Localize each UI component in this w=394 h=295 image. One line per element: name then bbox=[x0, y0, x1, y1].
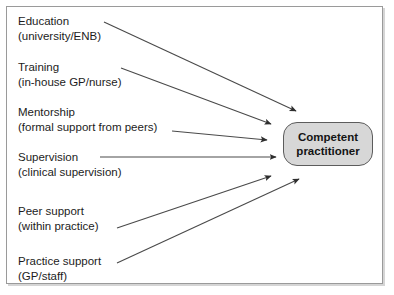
source-label-education-line1: Education bbox=[18, 14, 101, 29]
source-label-training: Training (in-house GP/nurse) bbox=[18, 60, 122, 90]
source-label-training-line2: (in-house GP/nurse) bbox=[18, 75, 122, 90]
source-label-mentorship-line1: Mentorship bbox=[18, 105, 157, 120]
source-label-supervision-line2: (clinical supervision) bbox=[18, 165, 122, 180]
source-label-mentorship: Mentorship (formal support from peers) bbox=[18, 105, 157, 135]
target-node-line1: Competent bbox=[298, 130, 358, 144]
source-label-mentorship-line2: (formal support from peers) bbox=[18, 120, 157, 135]
source-label-practice-support-line1: Practice support bbox=[18, 254, 101, 269]
source-label-peer-support: Peer support (within practice) bbox=[18, 204, 99, 234]
source-label-supervision-line1: Supervision bbox=[18, 150, 122, 165]
source-label-training-line1: Training bbox=[18, 60, 122, 75]
target-node-competent-practitioner: Competent practitioner bbox=[283, 122, 373, 166]
arrow-practice-support-to-competent-practitioner bbox=[117, 179, 299, 263]
target-node-line2: practitioner bbox=[296, 144, 359, 158]
source-label-peer-support-line1: Peer support bbox=[18, 204, 99, 219]
source-label-supervision: Supervision (clinical supervision) bbox=[18, 150, 122, 180]
source-label-education-line2: (university/ENB) bbox=[18, 29, 101, 44]
arrow-mentorship-to-competent-practitioner bbox=[172, 131, 267, 140]
source-label-education: Education (university/ENB) bbox=[18, 14, 101, 44]
figure-canvas: Education (university/ENB) Training (in-… bbox=[0, 0, 394, 295]
source-label-peer-support-line2: (within practice) bbox=[18, 219, 99, 234]
source-label-practice-support: Practice support (GP/staff) bbox=[18, 254, 101, 284]
source-label-practice-support-line2: (GP/staff) bbox=[18, 269, 101, 284]
